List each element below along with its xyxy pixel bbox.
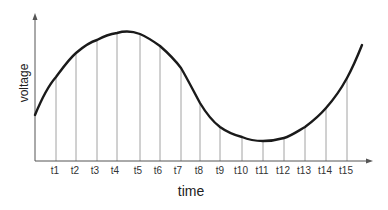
time-tick-labels: t1 t2 t3 t4 t5 t6 t7 t8 t9 t10 t11 t12 t… bbox=[51, 165, 354, 176]
sample-lines bbox=[56, 33, 347, 161]
x-axis-arrow-icon bbox=[366, 159, 373, 164]
tick-label-t1: t1 bbox=[51, 165, 60, 176]
y-axis-arrow-icon bbox=[33, 13, 38, 20]
tick-label-t10: t10 bbox=[234, 165, 248, 176]
tick-label-t2: t2 bbox=[71, 165, 80, 176]
voltage-curve bbox=[35, 32, 362, 141]
axes bbox=[35, 16, 370, 161]
tick-label-t6: t6 bbox=[154, 165, 163, 176]
sampling-diagram: t1 t2 t3 t4 t5 t6 t7 t8 t9 t10 t11 t12 t… bbox=[0, 0, 388, 210]
tick-label-t4: t4 bbox=[111, 165, 120, 176]
tick-label-t12: t12 bbox=[276, 165, 290, 176]
tick-label-t15: t15 bbox=[339, 165, 353, 176]
tick-label-t7: t7 bbox=[174, 165, 183, 176]
tick-label-t8: t8 bbox=[195, 165, 204, 176]
tick-label-t3: t3 bbox=[91, 165, 100, 176]
tick-label-t14: t14 bbox=[318, 165, 332, 176]
tick-label-t5: t5 bbox=[134, 165, 143, 176]
tick-label-t13: t13 bbox=[297, 165, 311, 176]
tick-label-t9: t9 bbox=[216, 165, 225, 176]
x-axis-title: time bbox=[178, 183, 205, 199]
tick-label-t11: t11 bbox=[255, 165, 269, 176]
y-axis-title: voltage bbox=[17, 63, 31, 102]
